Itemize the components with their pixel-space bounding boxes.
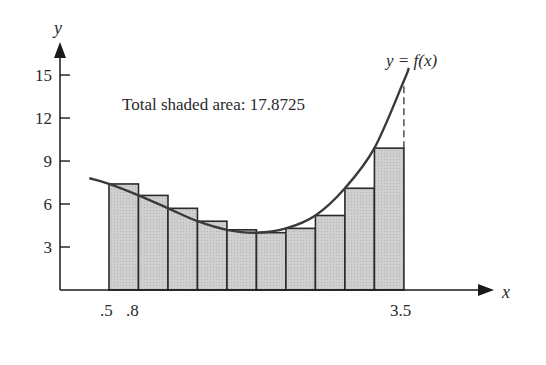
y-tick-label: 12 bbox=[35, 109, 52, 128]
bar bbox=[227, 230, 256, 290]
y-axis-label: y bbox=[52, 18, 62, 38]
x-axis-arrow-icon bbox=[478, 284, 494, 296]
y-tick-label: 9 bbox=[44, 152, 53, 171]
y-tick-label: 3 bbox=[44, 238, 53, 257]
y-ticks: 3691215 bbox=[35, 66, 70, 257]
bar bbox=[138, 195, 167, 290]
y-tick-label: 6 bbox=[44, 195, 53, 214]
bar bbox=[286, 228, 315, 290]
y-tick-label: 15 bbox=[35, 66, 52, 85]
x-tick-label-second: .8 bbox=[126, 301, 139, 320]
bar bbox=[256, 233, 285, 290]
x-axis-label: x bbox=[501, 282, 510, 302]
riemann-sum-chart: 3691215 y x .5 .8 3.5 Total shaded area:… bbox=[0, 0, 546, 365]
bar bbox=[315, 215, 344, 290]
bar bbox=[197, 221, 226, 290]
bar bbox=[374, 148, 403, 290]
x-tick-label-start: .5 bbox=[100, 301, 113, 320]
curve-label: y = f(x) bbox=[384, 51, 437, 70]
bar bbox=[109, 184, 138, 290]
bar bbox=[345, 188, 374, 290]
y-axis-arrow-icon bbox=[54, 42, 66, 58]
x-tick-label-end: 3.5 bbox=[390, 301, 411, 320]
total-area-annotation: Total shaded area: 17.8725 bbox=[122, 95, 305, 114]
